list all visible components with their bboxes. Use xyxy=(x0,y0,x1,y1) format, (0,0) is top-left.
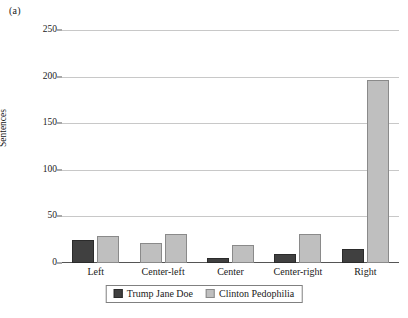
bar-group xyxy=(62,30,129,263)
x-tick-label: Center-left xyxy=(129,266,196,277)
bar xyxy=(274,254,296,263)
bar xyxy=(140,243,162,263)
y-tick-label: 150 xyxy=(13,118,57,128)
y-tick-label: 250 xyxy=(13,25,57,35)
chart-legend: Trump Jane Doe Clinton Pedophilia xyxy=(106,285,303,303)
y-axis-title: Sentences xyxy=(0,109,8,147)
legend-label-series-0: Trump Jane Doe xyxy=(127,288,193,299)
x-tick-label: Center-right xyxy=(264,266,331,277)
x-tick-label: Left xyxy=(62,266,129,277)
bar xyxy=(299,234,321,263)
y-tick-label: 100 xyxy=(13,165,57,175)
y-tick-label: 50 xyxy=(13,212,57,222)
y-tick-label: 0 xyxy=(13,258,57,268)
legend-swatch-icon-series-1 xyxy=(206,289,215,298)
bar-group xyxy=(332,30,399,263)
bar xyxy=(165,234,187,263)
y-tick-label: 200 xyxy=(13,72,57,82)
panel-label: (a) xyxy=(9,5,21,16)
bar-groups xyxy=(62,30,399,263)
bar xyxy=(342,249,364,263)
figure-panel: (a) Sentences 050100150200250 LeftCenter… xyxy=(0,0,408,318)
bar xyxy=(97,236,119,263)
x-tick-label: Center xyxy=(197,266,264,277)
x-tick-label: Right xyxy=(332,266,399,277)
bar-group xyxy=(129,30,196,263)
bar xyxy=(232,245,254,263)
legend-item-trump-jane-doe: Trump Jane Doe xyxy=(114,288,193,299)
legend-item-clinton-pedophilia: Clinton Pedophilia xyxy=(206,288,294,299)
legend-label-series-1: Clinton Pedophilia xyxy=(219,288,294,299)
bar xyxy=(72,240,94,263)
bar xyxy=(207,258,229,263)
legend-swatch-icon-series-0 xyxy=(114,289,123,298)
bar-group xyxy=(264,30,331,263)
x-axis-labels: LeftCenter-leftCenterCenter-rightRight xyxy=(62,266,399,277)
bar-group xyxy=(197,30,264,263)
bar xyxy=(367,80,389,263)
